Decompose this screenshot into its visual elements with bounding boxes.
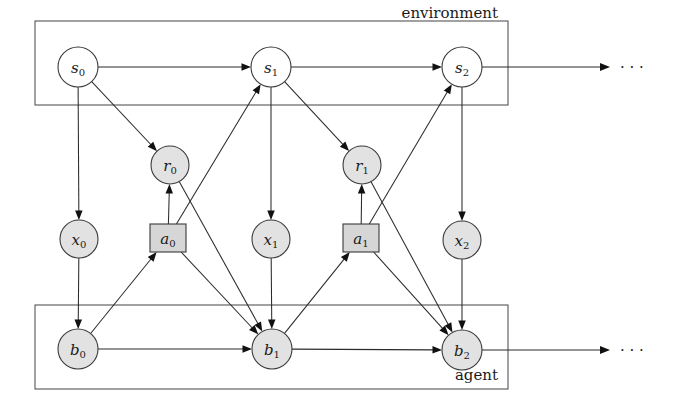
edge-s0-s1	[98, 63, 251, 71]
node-r1-subscript: 1	[362, 165, 368, 176]
node-s0[interactable]: s0	[58, 47, 98, 87]
edge-a0-r0-arrowhead	[165, 184, 172, 194]
edge-b1-a1-line	[285, 258, 345, 333]
edge-a1-r1-arrowhead	[358, 184, 365, 194]
node-b2[interactable]: b2	[442, 330, 482, 370]
edge-s0-r0-line	[92, 82, 152, 146]
node-s1-subscript: 1	[272, 67, 278, 78]
edge-a0-s1-arrowhead	[253, 84, 261, 94]
node-a0[interactable]: a0	[150, 224, 186, 252]
edge-layer	[75, 63, 466, 353]
continuation-layer: · · ·· · ·	[482, 58, 644, 359]
edge-a0-s1-line	[176, 91, 256, 224]
edge-s1-r1	[285, 82, 349, 151]
node-x2[interactable]: x2	[443, 221, 481, 259]
edge-a0-r0-line	[168, 192, 169, 224]
edge-a1-b2-line	[374, 252, 444, 329]
edge-s0-s1-arrowhead	[242, 63, 252, 71]
edge-s0-r0	[92, 82, 157, 152]
edge-s1-s2-arrowhead	[433, 63, 443, 71]
edge-s1-x1	[267, 87, 275, 220]
edge-b0-b1-arrowhead	[243, 345, 253, 353]
edge-b0-a0-line	[91, 258, 152, 333]
edge-s0-x0-arrowhead	[75, 210, 82, 220]
node-b1-base: b	[264, 341, 274, 359]
edge-b1-b2-line	[292, 349, 434, 350]
node-x0[interactable]: x0	[60, 220, 98, 258]
edge-s1-x1-arrowhead	[267, 211, 275, 221]
edge-b0-a0	[91, 252, 157, 333]
node-a1-subscript: 1	[362, 238, 368, 249]
edge-a1-s2-line	[369, 91, 447, 224]
node-s2[interactable]: s2	[442, 47, 482, 87]
edge-a0-r0	[165, 184, 172, 224]
plate-label-environment: environment	[402, 4, 498, 22]
edge-a1-b2	[374, 252, 449, 335]
agent-continuation: · · ·	[482, 341, 644, 359]
influence-diagram: · · ·· · · s0s1s2r0r1x0x1x2a0a1b0b1b2 en…	[0, 0, 675, 419]
edge-x1-b1	[268, 258, 275, 329]
node-x1[interactable]: x1	[252, 220, 290, 258]
node-x0-subscript: 0	[80, 239, 86, 250]
edge-a0-b1	[181, 252, 258, 334]
node-x2-subscript: 2	[463, 240, 469, 251]
node-a1[interactable]: a1	[343, 224, 379, 252]
node-r0[interactable]: r0	[151, 146, 189, 184]
node-b1[interactable]: b1	[252, 329, 292, 369]
edge-r0-b1-line	[179, 182, 258, 325]
agent-continuation-arrowhead	[600, 346, 610, 354]
edge-x0-b0-arrowhead	[75, 319, 82, 329]
node-b0[interactable]: b0	[58, 329, 98, 369]
edge-b1-a1-arrowhead	[341, 252, 350, 262]
edge-r1-b2-line	[371, 182, 449, 326]
edge-x1-b1-arrowhead	[268, 319, 275, 329]
env-continuation-ellipsis: · · ·	[620, 58, 644, 76]
edge-b1-b2-arrowhead	[432, 346, 442, 353]
edge-s0-x0-line	[78, 87, 79, 212]
agent-continuation-ellipsis: · · ·	[620, 341, 644, 359]
edge-r1-b2	[371, 182, 452, 333]
env-continuation-arrowhead	[600, 63, 610, 71]
edge-s1-s2	[291, 63, 442, 71]
node-a0-base: a	[160, 230, 169, 248]
node-b0-base: b	[70, 341, 80, 359]
node-r0-subscript: 0	[170, 165, 176, 176]
node-a0-subscript: 0	[169, 238, 175, 249]
node-b2-subscript: 2	[464, 350, 470, 361]
node-r1[interactable]: r1	[343, 146, 381, 184]
edge-x0-b0-line	[78, 258, 79, 321]
edge-a1-s2-arrowhead	[444, 84, 452, 94]
edge-s1-r1-line	[285, 82, 344, 146]
edge-b0-a0-arrowhead	[148, 252, 157, 262]
node-s2-subscript: 2	[463, 67, 469, 78]
node-x1-subscript: 1	[272, 239, 278, 250]
edge-x1-b1-line	[271, 258, 272, 321]
diagram-canvas: · · ·· · · s0s1s2r0r1x0x1x2a0a1b0b1b2 en…	[0, 0, 675, 419]
plate-label-agent: agent	[455, 366, 498, 384]
edge-x2-b2-arrowhead	[458, 321, 466, 331]
edge-s2-x2-arrowhead	[458, 212, 466, 222]
edge-s0-x0	[75, 87, 82, 220]
edge-s2-x2	[458, 87, 466, 221]
node-s0-subscript: 0	[79, 67, 85, 78]
edge-a1-r1	[358, 184, 365, 224]
node-b2-base: b	[454, 342, 464, 360]
node-s1[interactable]: s1	[251, 47, 291, 87]
node-b1-subscript: 1	[274, 349, 280, 360]
edge-r0-b1	[179, 182, 262, 332]
edge-x0-b0	[75, 258, 82, 329]
edge-b1-a1	[285, 252, 350, 333]
env-continuation: · · ·	[482, 58, 644, 76]
node-a1-base: a	[353, 230, 362, 248]
edge-b0-b1	[98, 345, 252, 353]
node-b0-subscript: 0	[80, 349, 86, 360]
edge-a0-b1-line	[181, 252, 253, 329]
edge-b1-b2	[292, 346, 442, 353]
edge-x2-b2	[458, 259, 466, 330]
